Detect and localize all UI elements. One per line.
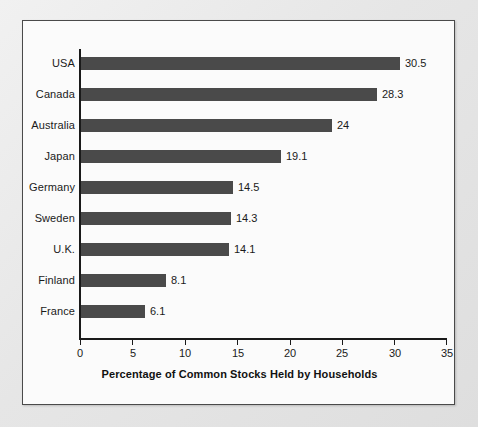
- category-label-box: Sweden: [23, 212, 75, 225]
- x-axis-tick-label: 15: [223, 347, 253, 359]
- bar-france: [81, 305, 145, 318]
- x-axis-line: [79, 338, 447, 340]
- x-axis-tick: [394, 340, 395, 345]
- category-label-box: Finland: [23, 274, 75, 287]
- category-label: USA: [52, 57, 75, 70]
- x-axis-tick-label: 25: [327, 347, 357, 359]
- value-label-japan: 19.1: [286, 150, 307, 163]
- value-label-canada: 28.3: [382, 88, 403, 101]
- category-label: Finland: [38, 274, 75, 287]
- x-axis-tick: [446, 340, 447, 345]
- category-label: Japan: [45, 150, 75, 163]
- x-axis-tick-label: 10: [170, 347, 200, 359]
- bar-uk: [81, 243, 229, 256]
- x-axis-tick: [132, 340, 133, 345]
- bar-australia: [81, 119, 332, 132]
- x-axis-tick-label: 0: [65, 347, 95, 359]
- x-axis-tick-label: 30: [380, 347, 410, 359]
- category-label-box: Germany: [23, 181, 75, 194]
- bar-sweden: [81, 212, 231, 225]
- category-label-box: Canada: [23, 88, 75, 101]
- x-axis-tick: [290, 340, 291, 345]
- x-axis-tick: [80, 340, 81, 345]
- category-label-box: U.K.: [23, 243, 75, 256]
- x-axis-tick: [237, 340, 238, 345]
- category-label: Canada: [36, 88, 75, 101]
- category-label-box: Japan: [23, 150, 75, 163]
- category-label: Australia: [31, 119, 75, 132]
- category-label-box: France: [23, 305, 75, 318]
- value-label-sweden: 14.3: [236, 212, 257, 225]
- x-axis-tick-label: 20: [275, 347, 305, 359]
- value-label-usa: 30.5: [405, 57, 426, 70]
- category-label-box: Australia: [23, 119, 75, 132]
- bar-japan: [81, 150, 281, 163]
- category-label: Germany: [29, 181, 75, 194]
- bar-germany: [81, 181, 233, 194]
- x-axis-tick-label: 5: [118, 347, 148, 359]
- value-label-france: 6.1: [150, 305, 165, 318]
- category-label-box: USA: [23, 57, 75, 70]
- x-axis-tick-label: 35: [432, 347, 462, 359]
- bar-usa: [81, 57, 400, 70]
- x-axis-tick: [342, 340, 343, 345]
- value-label-australia: 24: [337, 119, 349, 132]
- value-label-germany: 14.5: [238, 181, 259, 194]
- bar-chart-plot-area: USA 30.5 Canada 28.3 Australia 24 Japan …: [23, 21, 456, 406]
- bar-finland: [81, 274, 166, 287]
- chart-frame: USA 30.5 Canada 28.3 Australia 24 Japan …: [22, 20, 455, 405]
- x-axis-title: Percentage of Common Stocks Held by Hous…: [23, 368, 456, 380]
- category-label: Sweden: [35, 212, 75, 225]
- x-axis-tick: [185, 340, 186, 345]
- category-label: U.K.: [53, 243, 75, 256]
- category-label: France: [40, 305, 75, 318]
- value-label-finland: 8.1: [171, 274, 186, 287]
- bar-canada: [81, 88, 377, 101]
- value-label-uk: 14.1: [234, 243, 255, 256]
